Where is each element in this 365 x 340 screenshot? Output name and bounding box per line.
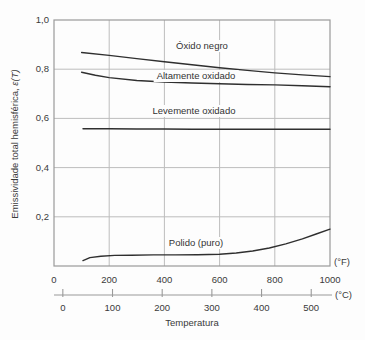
fahrenheit-unit-label: (°F): [334, 256, 350, 267]
y-axis-tick-label: 0,4: [21, 162, 49, 173]
celsius-tick-label: 200: [140, 302, 184, 313]
plot-frame: [54, 20, 330, 266]
fahrenheit-tick-label: 600: [198, 274, 242, 285]
y-axis-tick-label: 0,6: [21, 112, 49, 123]
y-axis-tick-label: 1,0: [21, 14, 49, 25]
curve-label-polido-puro: Polido (puro): [166, 237, 226, 249]
celsius-unit-label: (°C): [335, 289, 352, 300]
fahrenheit-tick-label: 0: [32, 274, 76, 285]
fahrenheit-tick-label: 800: [253, 274, 297, 285]
emissivity-chart: Emissividade total hemisférica, ε(T) Tem…: [0, 0, 365, 340]
curve-levemente-oxidado: [83, 129, 330, 130]
y-axis-title-symbol: ε(T): [9, 69, 20, 85]
x-axis-title: Temperatura: [165, 317, 218, 328]
curve-label-altamente-oxidado: Altamente oxidado: [154, 70, 239, 82]
celsius-tick-label: 0: [41, 302, 85, 313]
y-axis-title-text: Emissividade total hemisférica,: [9, 86, 20, 219]
curve-label-oxido-negro: Óxido negro: [173, 40, 231, 52]
celsius-tick-label: 100: [91, 302, 135, 313]
fahrenheit-tick-label: 200: [87, 274, 131, 285]
y-axis-tick-label: 0,2: [21, 211, 49, 222]
y-axis-title: Emissividade total hemisférica, ε(T): [9, 69, 20, 218]
y-axis-tick-label: 0,8: [21, 63, 49, 74]
celsius-tick-label: 300: [190, 302, 234, 313]
fahrenheit-tick-label: 400: [142, 274, 186, 285]
fahrenheit-tick-label: 1000: [308, 274, 352, 285]
celsius-tick-label: 500: [289, 302, 333, 313]
celsius-tick-label: 400: [240, 302, 284, 313]
curve-label-levemente-oxidado: Levemente oxidado: [150, 105, 239, 117]
